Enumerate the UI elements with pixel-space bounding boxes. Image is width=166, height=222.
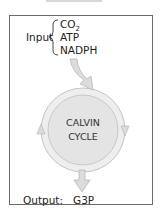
input-arrow-icon: [70, 59, 93, 90]
output-value: G3P: [73, 194, 94, 206]
output-label: Output:: [23, 194, 63, 206]
co2-text: CO: [60, 18, 76, 30]
input-label: Input: [26, 31, 53, 43]
output-arrow-icon: [74, 170, 90, 192]
calvin-cycle-graphic: [0, 0, 166, 222]
input-nadph: NADPH: [60, 44, 97, 56]
input-atp: ATP: [60, 31, 79, 43]
cycle-title-line2: CYCLE: [53, 130, 113, 144]
cycle-title-line1: CALVIN: [53, 116, 113, 130]
